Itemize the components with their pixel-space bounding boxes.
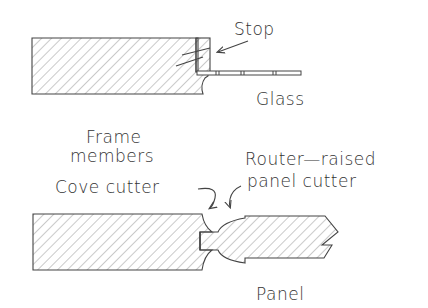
- stop-piece: [196, 38, 210, 72]
- glass-pane: [197, 71, 301, 75]
- panel-label: Panel: [256, 284, 304, 304]
- stop-label: Stop: [234, 19, 275, 39]
- frame-label: Frame: [86, 127, 141, 147]
- raised-panel-assembly: Panel: [33, 214, 338, 304]
- panel-cutter-label: panel cutter: [247, 171, 356, 191]
- raised-panel: [200, 216, 338, 263]
- diagram-canvas: Stop Glass Frame members Router—raised p…: [0, 0, 428, 308]
- members-label: members: [70, 146, 154, 166]
- frame-member-top: [32, 38, 208, 94]
- router-raised-label: Router—raised: [245, 149, 376, 169]
- stop-arrow: [218, 41, 248, 52]
- cove-cutter-arrow: [198, 188, 215, 208]
- cove-cutter-label: Cove cutter: [55, 177, 160, 197]
- panel-cutter-arrow: [230, 186, 242, 207]
- glass-label: Glass: [256, 89, 305, 109]
- frame-member-bottom: [33, 214, 212, 270]
- glass-frame-assembly: Stop Glass: [32, 19, 305, 109]
